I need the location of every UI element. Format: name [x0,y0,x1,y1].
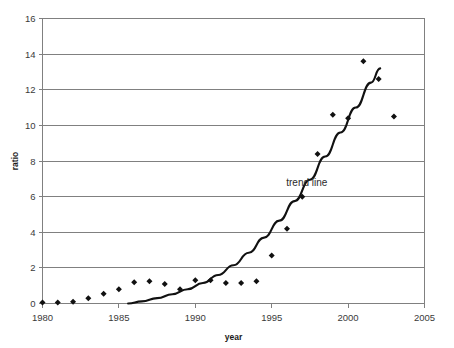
y-tick-label-0: 0 [30,298,35,309]
x-tick-label-2005: 2005 [414,312,435,323]
data-point-1988 [162,281,168,287]
x-tick-label-1980: 1980 [32,312,53,323]
data-point-markers [40,58,397,305]
x-tick-label-1990: 1990 [185,312,206,323]
data-point-1987 [146,278,152,284]
gridlines [43,19,425,304]
data-point-2002 [376,76,382,82]
data-point-2003 [391,113,397,119]
data-point-1986 [131,279,137,285]
y-tick-label-12: 12 [25,84,36,95]
y-tick-label-10: 10 [25,120,36,131]
y-tick-label-16: 16 [25,13,36,24]
data-point-1981 [55,300,61,306]
data-point-1996 [284,226,290,232]
data-point-1980 [40,300,46,306]
data-point-1998 [315,151,321,157]
y-tick-labels: 0246810121416 [25,13,36,309]
x-tick-label-1985: 1985 [108,312,129,323]
data-point-1990 [192,277,198,283]
annotations: trend line [286,177,328,188]
annotation-trend-line-label: trend line [286,177,328,188]
data-point-1999 [330,112,336,118]
data-point-1993 [238,280,244,286]
x-tick-label-1995: 1995 [261,312,282,323]
y-tick-label-6: 6 [30,191,35,202]
chart-container: 0246810121416 198019851990199520002005 t… [0,0,454,348]
y-tick-label-8: 8 [30,156,35,167]
x-axis-title: year [225,332,243,342]
x-tick-label-2000: 2000 [338,312,359,323]
y-tick-label-4: 4 [30,227,35,238]
data-point-1995 [269,252,275,258]
data-point-1985 [116,286,122,292]
data-point-1994 [253,278,259,284]
data-point-1983 [85,295,91,301]
ratio-vs-year-scatter-chart: 0246810121416 198019851990199520002005 t… [0,0,454,348]
data-point-1984 [101,291,107,297]
data-point-2001 [360,58,366,64]
y-axis-title: ratio [10,152,20,170]
y-tick-label-2: 2 [30,262,35,273]
data-point-1992 [223,280,229,286]
x-tick-labels: 198019851990199520002005 [32,312,435,323]
y-tick-label-14: 14 [25,49,36,60]
